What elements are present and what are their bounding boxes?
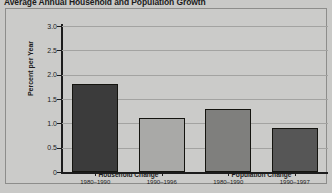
bar [272,128,318,172]
x-period-label: 1980–1990 [62,179,129,186]
y-tick-mark [57,123,61,124]
bar [139,118,185,172]
y-tick-mark [57,148,61,149]
y-axis-title: Percent per Year [27,24,34,114]
y-tick-label: 3.0 [35,23,57,30]
gridline [62,26,328,27]
x-group-label: Population Change [192,171,332,178]
x-period-label: 1990–1997 [262,179,329,186]
chart-figure: Average Annual Household and Population … [0,0,332,193]
gridline [62,50,328,51]
bar [205,109,251,172]
plot-area [62,26,328,172]
y-tick-mark [57,26,61,27]
y-tick-label: 0.5 [35,144,57,151]
x-period-label: 1980–1990 [195,179,262,186]
y-tick-label: 0 [35,169,57,176]
y-tick-mark [57,50,61,51]
bar [72,84,118,172]
x-period-label: 1990–1996 [129,179,196,186]
y-tick-mark [57,99,61,100]
x-group-label: Household Change [59,171,199,178]
chart-title: Average Annual Household and Population … [4,0,206,7]
gridline [62,75,328,76]
y-tick-mark [57,75,61,76]
y-tick-label: 2.5 [35,47,57,54]
y-tick-label: 2.0 [35,71,57,78]
y-tick-label: 1.5 [35,96,57,103]
plot-frame: Percent per Year 3.02.52.01.51.00.50 198… [5,8,327,184]
y-tick-label: 1.0 [35,120,57,127]
